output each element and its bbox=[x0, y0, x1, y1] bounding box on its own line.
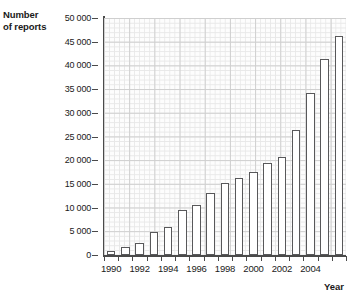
x-tick-mark bbox=[332, 256, 333, 261]
x-tick-mark bbox=[189, 256, 190, 261]
x-tick-mark bbox=[118, 256, 119, 261]
x-axis-title: Year bbox=[300, 281, 344, 292]
x-tick-mark bbox=[318, 256, 319, 261]
x-tick-mark bbox=[346, 256, 347, 261]
x-tick-mark bbox=[161, 256, 162, 261]
bar-chart: Number of reports 05 00010 00015 00020 0… bbox=[0, 0, 351, 301]
x-tick-mark bbox=[147, 256, 148, 261]
x-tick-mark bbox=[246, 256, 247, 261]
x-tick-mark bbox=[303, 256, 304, 261]
x-tick-mark bbox=[218, 256, 219, 261]
x-tick-mark bbox=[132, 256, 133, 261]
x-tick-label: 2004 bbox=[290, 263, 330, 274]
x-tick-mark bbox=[104, 256, 105, 261]
x-tick-mark bbox=[275, 256, 276, 261]
x-tick-mark bbox=[261, 256, 262, 261]
x-tick-mark bbox=[175, 256, 176, 261]
x-tick-mark bbox=[204, 256, 205, 261]
x-tick-mark bbox=[232, 256, 233, 261]
x-axis-ticks: 19901992199419961998200020022004 bbox=[0, 0, 351, 301]
x-tick-mark bbox=[289, 256, 290, 261]
